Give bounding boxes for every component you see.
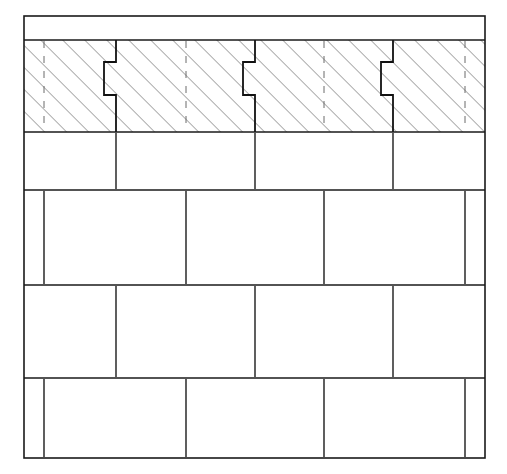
technical-drawing-canvas — [0, 0, 507, 474]
masonry-wall-drawing — [0, 0, 507, 474]
